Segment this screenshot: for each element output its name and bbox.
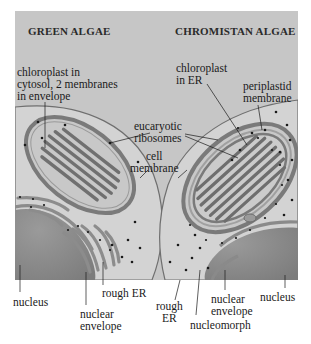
label-rough-er-right: rough ER [156,300,183,324]
label-periplastid-membrane: periplastid membrane [243,80,292,104]
label-nucleus-left: nucleus [13,296,48,308]
label-cell-membrane: cell membrane [130,150,179,174]
title-chromistan-algae: CHROMISTAN ALGAE [175,25,296,37]
label-nucleomorph: nucleomorph [190,319,251,331]
label-chloroplast-er: chloroplast in ER [176,62,227,86]
label-eucaryotic-ribosomes: eucaryotic ribosomes [134,120,182,144]
label-nucleus-right: nucleus [260,291,295,303]
nucleomorph-body [244,214,256,222]
title-green-algae: GREEN ALGAE [28,25,111,37]
label-chloroplast-cytosol: chloroplast in cytosol, 2 membranes in e… [17,66,118,102]
label-nuclear-envelope-right: nuclear envelope [211,293,253,317]
label-nuclear-envelope-left: nuclear envelope [80,308,122,332]
label-rough-er-left: rough ER [102,287,146,299]
